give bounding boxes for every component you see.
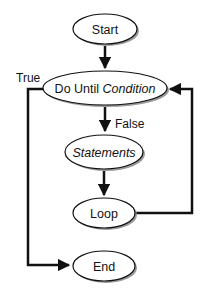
condition-prefix: Do Until xyxy=(55,82,103,96)
node-condition: Do Until Condition xyxy=(43,71,169,107)
condition-italic: Condition xyxy=(103,82,156,96)
node-end-label: End xyxy=(93,260,115,274)
node-start: Start xyxy=(73,14,139,46)
edge-label-true: True xyxy=(16,71,41,85)
node-statements-label: Statements xyxy=(72,146,135,160)
node-statements: Statements xyxy=(65,135,145,171)
node-loop-label: Loop xyxy=(90,207,118,221)
edge-label-false: False xyxy=(115,117,145,131)
edge-condition-to-end xyxy=(28,89,69,265)
flowchart-canvas: Start Do Until Condition Statements Loop… xyxy=(0,0,212,297)
node-loop: Loop xyxy=(73,198,137,230)
node-end: End xyxy=(73,251,137,283)
node-condition-label: Do Until Condition xyxy=(55,82,156,96)
node-start-label: Start xyxy=(92,23,119,37)
